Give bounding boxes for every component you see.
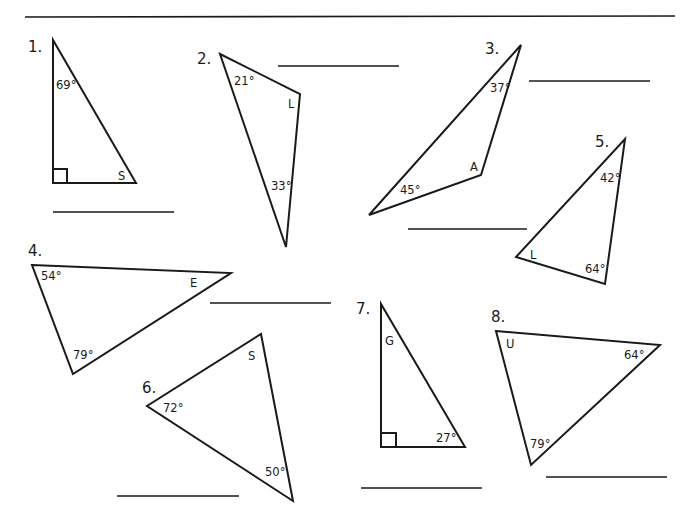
angle-label: 21° <box>234 74 254 88</box>
angle-label: S <box>248 349 255 363</box>
angle-label: L <box>288 97 295 111</box>
angle-label: 50° <box>265 465 285 479</box>
problem-3: 3. 37° A 45° <box>369 40 650 215</box>
triangle <box>220 54 300 247</box>
header-rule <box>25 16 675 17</box>
angle-label: 69° <box>56 78 76 92</box>
triangle <box>516 139 625 284</box>
right-angle-marker <box>53 169 67 183</box>
problem-number: 4. <box>28 242 42 260</box>
triangle <box>53 40 136 183</box>
problem-2: 2. 21° L 33° <box>197 50 399 247</box>
angle-label: 79° <box>73 348 93 362</box>
triangle <box>369 45 521 215</box>
angle-label: S <box>118 169 125 183</box>
worksheet: 1. 69° S 2. 21° L 33° 3. 37° A 45° 4. 54… <box>0 0 688 521</box>
triangle <box>32 265 231 374</box>
problem-5: 5. 42° L 64° <box>408 133 625 284</box>
angle-label: 64° <box>585 262 605 276</box>
problem-number: 8. <box>491 308 505 326</box>
angle-label: E <box>190 276 197 290</box>
problem-6: 6. S 72° 50° <box>117 334 293 501</box>
problem-number: 2. <box>197 50 211 68</box>
right-angle-marker <box>381 433 396 447</box>
problem-number: 6. <box>142 379 156 397</box>
angle-label: 64° <box>624 348 644 362</box>
angle-label: G <box>385 334 394 348</box>
problem-number: 3. <box>485 40 499 58</box>
problem-number: 5. <box>595 133 609 151</box>
problem-4: 4. 54° E 79° <box>28 242 331 374</box>
problem-8: 8. U 64° 79° <box>491 308 667 477</box>
angle-label: 72° <box>163 401 183 415</box>
angle-label: 79° <box>530 437 550 451</box>
angle-label: 37° <box>490 81 510 95</box>
problem-7: 7. G 27° <box>356 300 482 488</box>
angle-label: 42° <box>600 171 620 185</box>
angle-label: A <box>470 160 478 174</box>
angle-label: U <box>506 337 514 351</box>
angle-label: L <box>530 248 537 262</box>
problem-1: 1. 69° S <box>28 38 174 212</box>
triangle <box>381 304 465 447</box>
angle-label: 54° <box>41 269 61 283</box>
problem-number: 7. <box>356 300 370 318</box>
problem-number: 1. <box>28 38 42 56</box>
angle-label: 45° <box>400 183 420 197</box>
angle-label: 33° <box>271 179 291 193</box>
angle-label: 27° <box>436 431 456 445</box>
